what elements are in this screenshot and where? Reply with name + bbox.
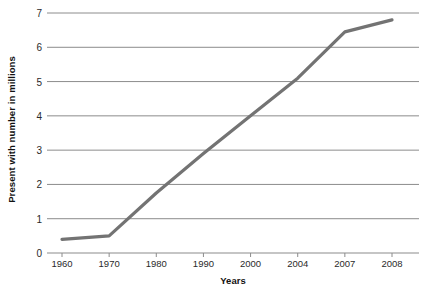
y-tick-label: 6 [36, 42, 42, 53]
data-series-line [62, 20, 392, 239]
x-tick-label: 1970 [99, 258, 120, 269]
y-tick-label: 1 [36, 213, 42, 224]
y-tick-label: 3 [36, 145, 42, 156]
x-axis-ticks [62, 253, 392, 257]
y-axis-title: Present with number in millions [0, 0, 22, 258]
y-tick-label: 7 [36, 8, 42, 19]
x-axis-title: Years [47, 275, 419, 286]
y-tick-label: 5 [36, 76, 42, 87]
gridlines [47, 13, 419, 253]
y-tick-label: 0 [36, 248, 42, 259]
y-axis-tick-labels: 01234567 [22, 0, 46, 295]
x-tick-label: 2000 [240, 258, 261, 269]
x-tick-label: 2007 [334, 258, 355, 269]
y-tick-label: 2 [36, 179, 42, 190]
x-tick-label: 1960 [51, 258, 72, 269]
data-series-group [62, 20, 392, 239]
x-tick-label: 2004 [287, 258, 308, 269]
y-axis-title-text: Present with number in millions [6, 56, 17, 203]
plot-area [47, 6, 419, 260]
x-tick-label: 2008 [381, 258, 402, 269]
plot-svg [47, 6, 419, 260]
x-tick-label: 1990 [193, 258, 214, 269]
y-tick-label: 4 [36, 110, 42, 121]
x-tick-label: 1980 [146, 258, 167, 269]
x-axis-tick-labels: 19601970198019902000200420072008 [0, 258, 426, 276]
line-chart: Present with number in millions 01234567… [0, 0, 426, 295]
